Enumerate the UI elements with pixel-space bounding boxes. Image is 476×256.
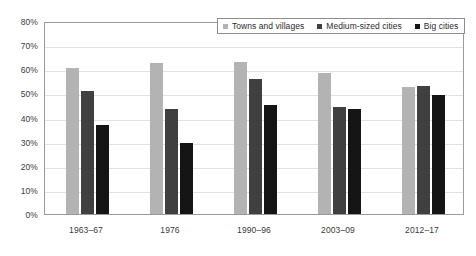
legend-label: Big cities [424,22,459,31]
x-tick-label: 2003–09 [321,225,355,235]
y-tick-label: 50% [21,90,38,99]
legend-swatch-icon [317,24,322,29]
y-axis: 0%10%20%30%40%50%60%70%80% [0,0,44,256]
legend-label: Medium-sized cities [326,22,402,31]
x-tick-label: 2012–17 [405,225,439,235]
bar-chart: 0%10%20%30%40%50%60%70%80% 1963–67197619… [0,0,476,256]
y-tick-label: 70% [21,42,38,51]
y-tick-label: 10% [21,187,38,196]
y-tick-label: 60% [21,66,38,75]
y-tick-label: 0% [26,211,39,220]
x-tick-label: 1990–96 [237,225,271,235]
bar [402,87,415,214]
chart-legend: Towns and villagesMedium-sized citiesBig… [217,18,465,34]
bar [417,86,430,214]
y-tick-label: 80% [21,18,38,27]
bar [432,95,445,214]
bars-layer [45,23,463,214]
legend-item[interactable]: Big cities [415,22,459,31]
y-tick-label: 40% [21,114,38,123]
bar-group [45,23,465,214]
y-tick-label: 30% [21,138,38,147]
legend-swatch-icon [415,24,420,29]
y-tick-label: 20% [21,163,38,172]
x-tick-label: 1963–67 [69,225,103,235]
x-axis: 1963–6719761990–962003–092012–17 [44,216,464,246]
legend-item[interactable]: Medium-sized cities [317,22,402,31]
legend-swatch-icon [223,24,228,29]
legend-item[interactable]: Towns and villages [223,22,304,31]
plot-area [44,22,464,215]
legend-label: Towns and villages [232,22,304,31]
x-tick-label: 1976 [160,225,179,235]
